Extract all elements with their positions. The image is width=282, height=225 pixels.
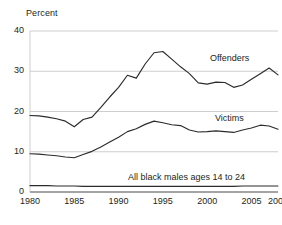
x-tick-label: 2008 bbox=[263, 196, 282, 206]
y-tick-label: 30 bbox=[2, 65, 24, 75]
series-label-offenders: Offenders bbox=[208, 53, 251, 63]
x-tick-label: 2000 bbox=[192, 196, 222, 206]
series-label-victims: Victims bbox=[213, 113, 246, 123]
x-tick-label: 1985 bbox=[59, 196, 89, 206]
x-tick-label: 1995 bbox=[148, 196, 178, 206]
x-tick-label: 2005 bbox=[236, 196, 266, 206]
x-tick-label: 1980 bbox=[15, 196, 45, 206]
chart-figure: Percent 010203040 1980198519901995200020… bbox=[0, 0, 282, 225]
series-line bbox=[30, 121, 278, 158]
series-label-all-black-males-ages-14-to-24: All black males ages 14 to 24 bbox=[126, 172, 247, 182]
x-tick-label: 1990 bbox=[104, 196, 134, 206]
y-tick-label: 20 bbox=[2, 106, 24, 116]
y-tick-label: 40 bbox=[2, 25, 24, 35]
series-line bbox=[30, 186, 278, 187]
y-tick-label: 0 bbox=[2, 186, 24, 196]
y-tick-label: 10 bbox=[2, 146, 24, 156]
